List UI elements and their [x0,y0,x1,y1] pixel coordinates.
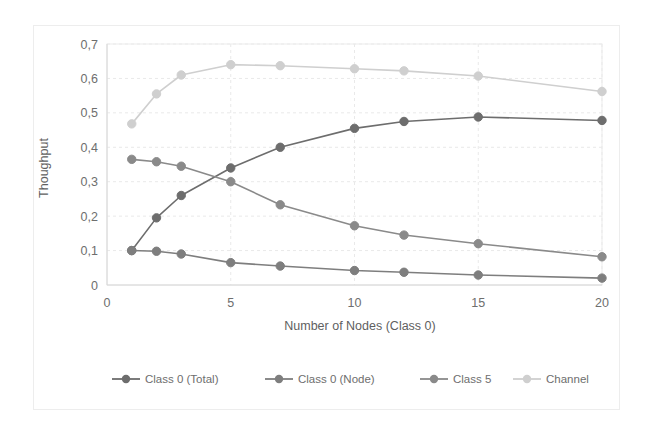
legend-marker-icon [122,375,130,383]
legend-item-channel[interactable]: Channel [513,373,589,385]
x-tick-label: 5 [227,296,234,310]
y-axis-title: Thoughput [37,138,51,198]
series-class-5 [128,155,607,261]
data-point [177,71,185,79]
y-tick-label: 0,2 [81,210,98,224]
x-tick-label: 0 [104,296,111,310]
legend-marker-icon [275,375,283,383]
data-point [276,201,284,209]
legend-item-class-0-total[interactable]: Class 0 (Total) [112,373,219,385]
data-point [152,247,160,255]
legend-item-class-0-node[interactable]: Class 0 (Node) [265,373,375,385]
data-point [400,67,408,75]
x-axis-title: Number of Nodes (Class 0) [284,319,435,333]
y-tick-label: 0,4 [81,141,98,155]
data-point [152,214,160,222]
data-series [128,60,607,282]
data-point [128,246,136,254]
series-line [132,159,602,256]
data-point [598,274,606,282]
data-point [598,116,606,124]
data-point [177,191,185,199]
data-point [276,61,284,69]
series-class-0-node [128,246,607,282]
legend-marker-icon [523,375,531,383]
data-point [474,239,482,247]
x-tick-label: 20 [595,296,609,310]
data-point [227,60,235,68]
data-point [227,258,235,266]
chart-container: 00,10,20,30,40,50,60,7 05101520 Thoughpu… [0,0,652,433]
data-point [350,222,358,230]
y-axis-tick-labels: 00,10,20,30,40,50,60,7 [81,38,98,293]
data-point [598,253,606,261]
data-point [152,90,160,98]
legend-label: Class 5 [453,373,491,385]
data-point [350,266,358,274]
legend-item-class-5[interactable]: Class 5 [420,373,491,385]
line-chart: 00,10,20,30,40,50,60,7 05101520 Thoughpu… [0,0,652,433]
series-class-0-total [128,113,607,255]
data-point [128,155,136,163]
legend-marker-icon [430,375,438,383]
y-tick-label: 0,6 [81,72,98,86]
legend-label: Channel [546,373,589,385]
x-tick-label: 10 [348,296,362,310]
data-point [177,250,185,258]
y-tick-label: 0,3 [81,175,98,189]
legend-label: Class 0 (Total) [145,373,219,385]
data-point [227,178,235,186]
data-point [350,124,358,132]
data-point [128,120,136,128]
data-point [598,87,606,95]
chart-legend: Class 0 (Total)Class 0 (Node)Class 5Chan… [112,373,589,385]
data-point [276,262,284,270]
series-line [132,65,602,124]
x-axis-tick-labels: 05101520 [104,296,609,310]
data-point [350,65,358,73]
y-tick-label: 0,7 [81,38,98,52]
data-point [227,164,235,172]
y-tick-label: 0,5 [81,106,98,120]
data-point [276,143,284,151]
series-line [132,251,602,279]
data-point [474,72,482,80]
data-point [152,158,160,166]
data-point [400,231,408,239]
data-point [177,162,185,170]
data-point [400,268,408,276]
data-point [474,271,482,279]
y-tick-label: 0,1 [81,244,98,258]
y-tick-label: 0 [91,279,98,293]
data-point [400,117,408,125]
data-point [474,113,482,121]
x-tick-label: 15 [471,296,485,310]
series-line [132,117,602,251]
legend-label: Class 0 (Node) [298,373,375,385]
